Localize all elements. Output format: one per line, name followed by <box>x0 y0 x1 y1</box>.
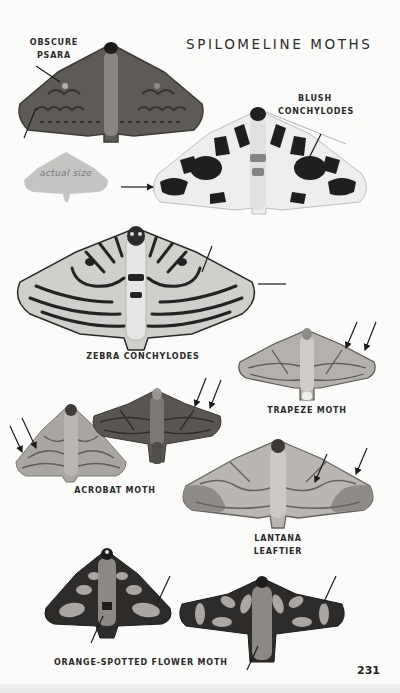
label-line: ORANGE-SPOTTED FLOWER MOTH <box>54 656 224 669</box>
label-line: LEAFTIER <box>246 545 310 558</box>
label-line: TRAPEZE MOTH <box>262 404 352 417</box>
label-lantana-leaftier: LANTANA LEAFTIER <box>246 532 310 558</box>
page-number: 231 <box>357 664 380 677</box>
actual-size-indicator: actual size <box>20 150 112 202</box>
label-line: ACROBAT MOTH <box>74 484 156 497</box>
moth-orange-spotted-flower-moth-left <box>42 546 174 638</box>
label-zebra-conchylodes: ZEBRA CONCHYLODES <box>86 350 200 363</box>
page-title: SPILOMELINE MOTHS <box>186 36 372 52</box>
label-trapeze-moth: TRAPEZE MOTH <box>262 404 352 417</box>
label-line: LANTANA <box>246 532 310 545</box>
label-acrobat-moth: ACROBAT MOTH <box>74 484 156 497</box>
label-line: ZEBRA CONCHYLODES <box>86 350 200 363</box>
moth-trapeze-moth <box>236 326 378 402</box>
moth-orange-spotted-flower-moth-right <box>176 574 348 664</box>
moth-lantana-leaftier <box>180 436 376 530</box>
label-orange-spotted-flower-moth: ORANGE-SPOTTED FLOWER MOTH <box>54 656 224 669</box>
page-edge-shadow <box>0 684 400 693</box>
moth-blush-conchylodes <box>150 104 376 216</box>
actual-size-label: actual size <box>20 168 112 178</box>
moth-zebra-conchylodes <box>16 222 256 350</box>
